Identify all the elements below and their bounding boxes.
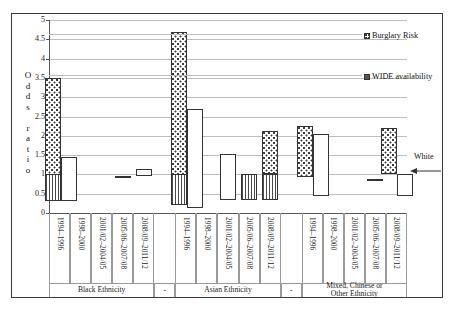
x-axis-period-label: 2001/02–2004/05 [224,217,232,269]
x-axis-group-label: Black Ethnicity [78,286,125,294]
y-axis-tick-label: 1 [19,170,45,178]
x-axis-period-cell: 2008/09–2011/12 [260,213,281,283]
x-axis-period-label: 1998–2000 [203,217,211,250]
x-axis-period-cell: 2001/02–2004/05 [344,213,365,283]
legend-key-dotted-icon [364,33,370,39]
plot-area [49,20,407,213]
bar-confidence-interval [397,174,413,195]
y-axis-tick-label: 0 [19,209,45,217]
x-axis-period-label: 2001/02–2004/05 [350,217,358,269]
bar-wide-availability [171,174,187,205]
x-axis-period-cell: 1994–1996 [302,213,323,283]
legend-item: WIDE availability [364,72,432,81]
y-axis-tick-label: 4 [19,55,45,63]
y-axis-title: Odds ratio [22,70,34,175]
y-axis-tick-label: 2.5 [19,113,45,121]
x-axis-period-label: 2005/06–2007/08 [371,217,379,269]
bar-wide-availability [45,174,61,201]
x-axis-period-cell: 1994–1996 [49,213,70,283]
x-axis-period-cell: 2001/02–2004/05 [217,213,238,283]
x-axis-period-cell: 1998–2000 [70,213,91,283]
x-axis-group-separator-label: - [290,286,293,295]
y-axis-tick-label: 3 [19,93,45,101]
x-axis-group-cell: Black Ethnicity [49,283,154,297]
x-axis-period-cell: 2005/06–2007/08 [239,213,260,283]
x-axis-period-cell: 2001/02–2004/05 [91,213,112,283]
white-reference-label: White [414,152,434,161]
bar-confidence-interval [187,109,203,209]
x-axis-group-labels: Black Ethnicity-Asian Ethnicity-Mixed, C… [49,283,407,297]
x-axis-period-cell: 1998–2000 [196,213,217,283]
y-axis-tick-label: 3.5 [19,74,45,82]
x-axis-group-separator: - [154,283,175,297]
x-axis-period-label: 1998–2000 [329,217,337,250]
bar-burglary-risk [381,128,397,174]
x-axis-period-cell: 2008/09–2011/12 [133,213,154,283]
x-axis-group-separator: - [281,283,302,297]
legend-label: Burglary Risk [372,31,418,40]
x-axis-period-cell: 2008/09–2011/12 [386,213,407,283]
x-axis-period-label: 2005/06–2007/08 [119,217,127,269]
x-axis-period-label: 2005/06–2007/08 [245,217,253,269]
y-axis-tick-label: 5 [19,16,45,24]
x-axis-group-cell: Asian Ethnicity [175,283,280,297]
x-axis-period-cell: 1994–1996 [175,213,196,283]
chart-root: Odds ratio 00.511.522.533.544.55 1994–19… [0,0,454,314]
bar-confidence-interval [367,179,383,181]
bar-confidence-interval [220,154,236,200]
x-axis-period-label: 1994–1996 [56,217,64,250]
bar-confidence-interval [313,134,329,196]
bar-confidence-interval [136,169,152,176]
bar-wide-availability [262,174,278,200]
white-reference-arrow-icon [410,166,442,176]
legend-rule [49,75,362,76]
y-axis-tick-label: 0.5 [19,190,45,198]
x-axis-period-label: 1998–2000 [77,217,85,250]
bar-confidence-interval [115,176,131,178]
x-axis-period-label: 1994–1996 [308,217,316,250]
x-axis-period-cell: 2005/06–2007/08 [365,213,386,283]
x-axis-group-cell: Mixed, Chinese orOther Ethnicity [302,283,407,297]
x-axis-group-label: Asian Ethnicity [204,286,251,294]
legend-rule [49,34,362,35]
bar-burglary-risk [262,131,278,174]
legend-item: Burglary Risk [364,31,418,40]
bar-confidence-interval [61,157,77,201]
x-axis-period-label: 1994–1996 [182,217,190,250]
x-axis-period-label: 2008/09–2011/12 [140,217,148,269]
x-axis-period-cell: 2005/06–2007/08 [112,213,133,283]
x-axis-period-cell: 1998–2000 [323,213,344,283]
x-axis-period-label: 2008/09–2011/12 [266,217,274,269]
x-axis-group-label: Mixed, Chinese orOther Ethnicity [326,282,382,298]
x-axis-period-label: 2008/09–2011/12 [392,217,400,269]
y-axis-tick-label: 1.5 [19,151,45,159]
bar-burglary-risk [297,126,313,177]
y-axis-tick-label: 4.5 [19,35,45,43]
legend-key-striped-icon [364,74,370,80]
bar-wide-availability [241,174,257,200]
x-axis-period-labels: 1994–19961998–20002001/02–2004/052005/06… [49,213,407,283]
legend-label: WIDE availability [372,72,432,81]
y-axis-tick-label: 2 [19,132,45,140]
x-axis-period-label: 2001/02–2004/05 [98,217,106,269]
x-axis-group-separator-label: - [164,286,167,295]
